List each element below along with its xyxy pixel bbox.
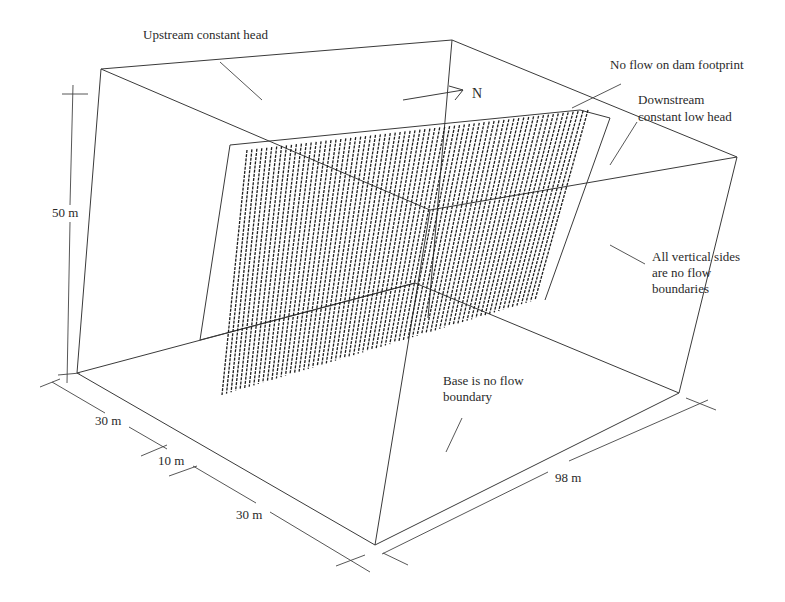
label-downstream-line2: constant low head	[638, 109, 732, 125]
label-base-line1: Base is no flow	[443, 373, 524, 389]
label-no-flow-dam-footprint: No flow on dam footprint	[610, 57, 744, 73]
label-sides-line3: boundaries	[652, 281, 709, 297]
label-north: N	[472, 86, 482, 102]
dimension-label-height: 50 m	[52, 205, 78, 221]
flow-line-hatching	[222, 110, 588, 395]
label-sides-line1: All vertical sides	[652, 249, 740, 265]
dimension-label-width-upstream: 30 m	[95, 413, 121, 429]
dimension-label-width-downstream: 30 m	[236, 507, 262, 523]
north-arrow-icon	[403, 86, 463, 100]
dimension-label-length: 98 m	[555, 470, 581, 486]
label-upstream-constant-head: Upstream constant head	[143, 27, 268, 43]
dimension-label-width-dam: 10 m	[158, 453, 184, 469]
label-downstream-line1: Downstream	[638, 92, 704, 108]
label-sides-line2: are no flow	[652, 265, 711, 281]
label-base-line2: boundary	[443, 389, 492, 405]
model-domain-diagram	[0, 0, 785, 602]
